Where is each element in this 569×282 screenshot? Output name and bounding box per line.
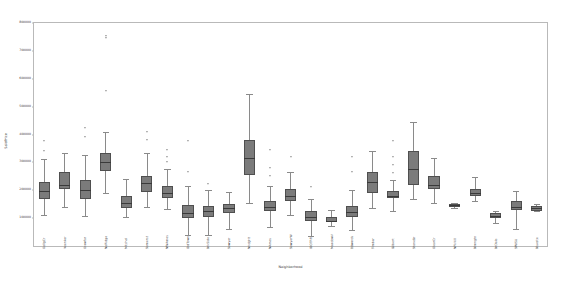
cap-lower xyxy=(123,217,129,218)
median-line xyxy=(264,207,275,208)
median-line xyxy=(182,213,193,214)
outlier-marker xyxy=(146,139,148,141)
whisker-lower xyxy=(372,193,373,207)
cap-lower xyxy=(513,229,519,230)
whisker-lower xyxy=(188,218,189,235)
y-tick-label: 800000 xyxy=(19,21,31,24)
x-tick-label: MeadowV xyxy=(331,234,334,249)
cap-lower xyxy=(82,216,88,217)
whisker-lower xyxy=(105,171,106,193)
cap-lower xyxy=(410,199,416,200)
cap-lower xyxy=(431,203,437,204)
whisker-upper xyxy=(475,177,476,189)
cap-lower xyxy=(390,211,396,212)
whisker-upper xyxy=(147,153,148,177)
x-tick-label: Veenker xyxy=(64,237,67,250)
x-tick-label: Mitchel xyxy=(125,238,128,249)
whisker-lower xyxy=(290,201,291,215)
box xyxy=(182,205,193,218)
whisker-upper xyxy=(331,210,332,217)
whisker-lower xyxy=(208,217,209,235)
box xyxy=(59,172,70,189)
box xyxy=(428,176,439,189)
outlier-marker xyxy=(392,164,394,166)
outlier-marker xyxy=(351,171,353,173)
y-tick-label: 400000 xyxy=(19,133,31,136)
outlier-marker xyxy=(43,150,45,152)
y-tick-label: 700000 xyxy=(19,49,31,52)
whisker-upper xyxy=(126,179,127,196)
whisker-upper xyxy=(64,153,65,173)
x-tick-label: Crawfor xyxy=(84,237,87,249)
outlier-marker xyxy=(269,175,271,177)
cap-upper xyxy=(328,210,334,211)
x-tick-label: Somerst xyxy=(146,236,149,249)
y-tick-mark xyxy=(32,78,34,79)
x-tick-label: BrkSide xyxy=(207,237,210,249)
whisker-upper xyxy=(188,186,189,205)
cap-lower xyxy=(164,209,170,210)
whisker-upper xyxy=(167,169,168,187)
x-tick-label: Edwards xyxy=(351,236,354,249)
y-tick-mark xyxy=(32,50,34,51)
outlier-marker xyxy=(105,37,107,39)
whisker-upper xyxy=(393,180,394,191)
cap-upper xyxy=(410,122,416,123)
whisker-lower xyxy=(126,208,127,217)
whisker-upper xyxy=(249,94,250,140)
whisker-lower xyxy=(44,199,45,216)
cap-upper xyxy=(226,192,232,193)
cap-upper xyxy=(62,153,68,154)
cap-lower xyxy=(62,207,68,208)
y-tick-mark xyxy=(32,218,34,219)
x-tick-label: SawyerW xyxy=(290,235,293,249)
median-line xyxy=(285,196,296,197)
whisker-lower xyxy=(147,192,148,207)
cap-upper xyxy=(103,132,109,133)
whisker-upper xyxy=(516,191,517,201)
x-tick-label: NAmes xyxy=(269,238,272,249)
cap-lower xyxy=(267,227,273,228)
whisker-upper xyxy=(85,155,86,179)
cap-upper xyxy=(472,177,478,178)
y-tick-label: 600000 xyxy=(19,77,31,80)
whisker-lower xyxy=(64,189,65,207)
whisker-upper xyxy=(352,190,353,205)
box xyxy=(387,191,398,198)
whisker-upper xyxy=(311,199,312,212)
cap-lower xyxy=(287,215,293,216)
x-tick-label: Blmngtn xyxy=(474,236,477,249)
box xyxy=(141,176,152,192)
x-tick-label: NWAmes xyxy=(166,235,169,249)
median-line xyxy=(428,185,439,186)
outlier-marker xyxy=(351,156,353,158)
outlier-marker xyxy=(392,172,394,174)
whisker-lower xyxy=(516,210,517,230)
whisker-lower xyxy=(229,213,230,229)
cap-lower xyxy=(246,203,252,204)
outlier-marker xyxy=(187,171,189,173)
median-line xyxy=(121,203,132,204)
cap-upper xyxy=(144,153,150,154)
x-tick-label: BrDale xyxy=(495,239,498,249)
median-line xyxy=(531,208,542,209)
median-line xyxy=(511,207,522,208)
x-tick-label: OldTown xyxy=(187,236,190,249)
cap-upper xyxy=(431,158,437,159)
cap-lower xyxy=(205,235,211,236)
outlier-marker xyxy=(392,140,394,142)
whisker-lower xyxy=(311,221,312,236)
x-tick-label: SWISU xyxy=(515,239,518,249)
median-line xyxy=(80,190,91,191)
median-line xyxy=(408,169,419,170)
whisker-upper xyxy=(372,151,373,172)
y-tick-mark xyxy=(32,134,34,135)
median-line xyxy=(346,212,357,213)
cap-lower xyxy=(349,230,355,231)
y-tick-label: 200000 xyxy=(19,189,31,192)
outlier-marker xyxy=(269,167,271,169)
median-line xyxy=(326,221,337,222)
outlier-marker xyxy=(166,149,168,151)
cap-lower xyxy=(144,207,150,208)
whisker-lower xyxy=(270,211,271,227)
